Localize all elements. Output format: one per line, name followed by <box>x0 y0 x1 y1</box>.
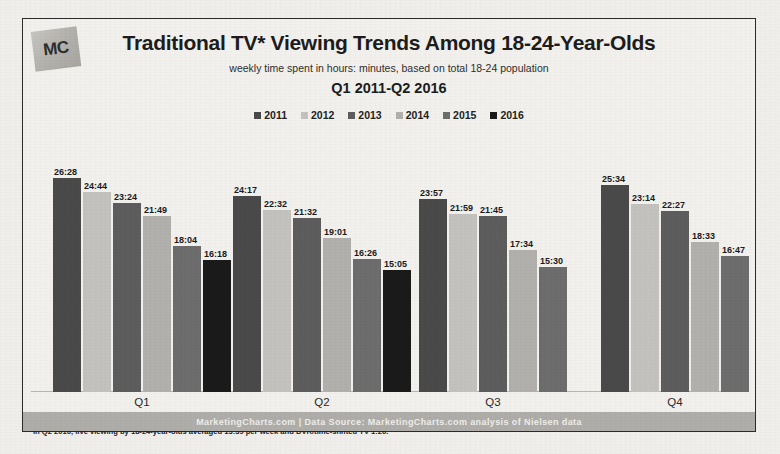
bar-fill <box>661 211 689 392</box>
bar-value-label: 21:49 <box>144 205 167 215</box>
bar-value-label: 23:24 <box>114 192 137 202</box>
bar-Q2-2016[interactable]: 15:05 <box>383 270 411 392</box>
bar-fill <box>383 270 411 392</box>
legend-item-label: 2011 <box>264 109 287 121</box>
bar-Q1-2015[interactable]: 18:04 <box>173 246 201 392</box>
legend-item-2012[interactable]: 2012 <box>301 109 334 121</box>
bar-value-label: 26:28 <box>54 167 77 177</box>
bar-fill <box>509 250 537 392</box>
bar-Q1-2012[interactable]: 24:44 <box>83 192 111 392</box>
bar-fill <box>631 204 659 392</box>
bar-fill <box>691 242 719 392</box>
chart-card: MC Traditional TV* Viewing Trends Among … <box>22 18 756 432</box>
plot-area: 26:2824:4423:2421:4918:0416:1824:1722:32… <box>23 161 755 392</box>
bar-Q4-2011[interactable]: 25:34 <box>601 185 629 392</box>
bar-Q2-2013[interactable]: 21:32 <box>293 218 321 392</box>
bar-fill <box>539 267 567 392</box>
bar-value-label: 24:44 <box>84 181 107 191</box>
bar-value-label: 24:17 <box>234 185 257 195</box>
bar-fill <box>353 259 381 392</box>
chart-legend: 201120122013201420152016 <box>23 109 755 121</box>
bar-fill <box>449 214 477 392</box>
chart-subtitle: weekly time spent in hours: minutes, bas… <box>23 62 755 74</box>
chart-date-range: Q1 2011-Q2 2016 <box>23 80 755 96</box>
bar-value-label: 21:32 <box>294 207 317 217</box>
bar-fill <box>601 185 629 392</box>
bar-Q4-2013[interactable]: 22:27 <box>661 211 689 392</box>
bar-Q2-2011[interactable]: 24:17 <box>233 196 261 392</box>
bar-Q3-2015[interactable]: 15:30 <box>539 267 567 392</box>
bar-fill <box>53 178 81 392</box>
bar-fill <box>113 203 141 392</box>
bar-value-label: 17:34 <box>510 239 533 249</box>
bar-Q4-2012[interactable]: 23:14 <box>631 204 659 392</box>
legend-item-2016[interactable]: 2016 <box>490 109 523 121</box>
category-label-Q4: Q4 <box>645 396 705 408</box>
bar-fill <box>203 260 231 392</box>
legend-item-label: 2013 <box>358 109 381 121</box>
legend-item-2015[interactable]: 2015 <box>443 109 476 121</box>
bar-value-label: 18:04 <box>174 235 197 245</box>
bar-fill <box>83 192 111 392</box>
bar-fill <box>721 256 749 392</box>
page-title: Traditional TV* Viewing Trends Among 18-… <box>23 31 755 55</box>
bar-fill <box>143 216 171 392</box>
logo-text: MC <box>42 38 70 61</box>
bar-value-label: 18:33 <box>692 231 715 241</box>
bar-value-label: 21:45 <box>480 205 503 215</box>
footer-bar: MarketingCharts.com | Data Source: Marke… <box>23 412 755 431</box>
bar-value-label: 15:05 <box>384 259 407 269</box>
bar-Q1-2011[interactable]: 26:28 <box>53 178 81 392</box>
bar-value-label: 22:27 <box>662 200 685 210</box>
bar-value-label: 23:14 <box>632 193 655 203</box>
marketingcharts-logo: MC <box>31 26 82 71</box>
bar-value-label: 16:26 <box>354 248 377 258</box>
bar-Q1-2013[interactable]: 23:24 <box>113 203 141 392</box>
bar-fill <box>233 196 261 392</box>
bar-Q1-2016[interactable]: 16:18 <box>203 260 231 392</box>
category-label-Q3: Q3 <box>463 396 523 408</box>
legend-swatch-icon <box>490 112 497 119</box>
legend-swatch-icon <box>254 112 261 119</box>
bar-Q1-2014[interactable]: 21:49 <box>143 216 171 392</box>
chart-header: Traditional TV* Viewing Trends Among 18-… <box>23 19 755 96</box>
bar-value-label: 25:34 <box>602 174 625 184</box>
category-label-Q1: Q1 <box>112 396 172 408</box>
bar-fill <box>263 210 291 392</box>
bar-value-label: 15:30 <box>540 256 563 266</box>
legend-item-label: 2016 <box>500 109 523 121</box>
bar-fill <box>173 246 201 392</box>
bar-fill <box>419 199 447 392</box>
bar-value-label: 16:47 <box>722 245 745 255</box>
category-label-Q2: Q2 <box>292 396 352 408</box>
legend-item-label: 2014 <box>406 109 429 121</box>
legend-swatch-icon <box>443 112 450 119</box>
bar-fill <box>293 218 321 392</box>
legend-item-2011[interactable]: 2011 <box>254 109 287 121</box>
legend-item-2014[interactable]: 2014 <box>396 109 429 121</box>
legend-swatch-icon <box>301 112 308 119</box>
legend-swatch-icon <box>396 112 403 119</box>
bar-value-label: 22:32 <box>264 199 287 209</box>
bar-Q2-2014[interactable]: 19:01 <box>323 238 351 392</box>
footer-source-text: MarketingCharts.com | Data Source: Marke… <box>196 417 582 427</box>
bar-value-label: 23:57 <box>420 188 443 198</box>
bar-Q2-2012[interactable]: 22:32 <box>263 210 291 392</box>
bar-Q2-2015[interactable]: 16:26 <box>353 259 381 392</box>
legend-swatch-icon <box>348 112 355 119</box>
bar-Q4-2014[interactable]: 18:33 <box>691 242 719 392</box>
bar-Q3-2013[interactable]: 21:45 <box>479 216 507 392</box>
bar-Q3-2012[interactable]: 21:59 <box>449 214 477 392</box>
bar-Q4-2015[interactable]: 16:47 <box>721 256 749 392</box>
bar-value-label: 21:59 <box>450 203 473 213</box>
bar-fill <box>323 238 351 392</box>
bar-value-label: 16:18 <box>204 249 227 259</box>
scanned-page-background: MC Traditional TV* Viewing Trends Among … <box>0 0 780 454</box>
bar-value-label: 19:01 <box>324 227 347 237</box>
bar-fill <box>479 216 507 392</box>
legend-item-label: 2012 <box>311 109 334 121</box>
legend-item-2013[interactable]: 2013 <box>348 109 381 121</box>
legend-item-label: 2015 <box>453 109 476 121</box>
bar-Q3-2014[interactable]: 17:34 <box>509 250 537 392</box>
bar-Q3-2011[interactable]: 23:57 <box>419 199 447 392</box>
